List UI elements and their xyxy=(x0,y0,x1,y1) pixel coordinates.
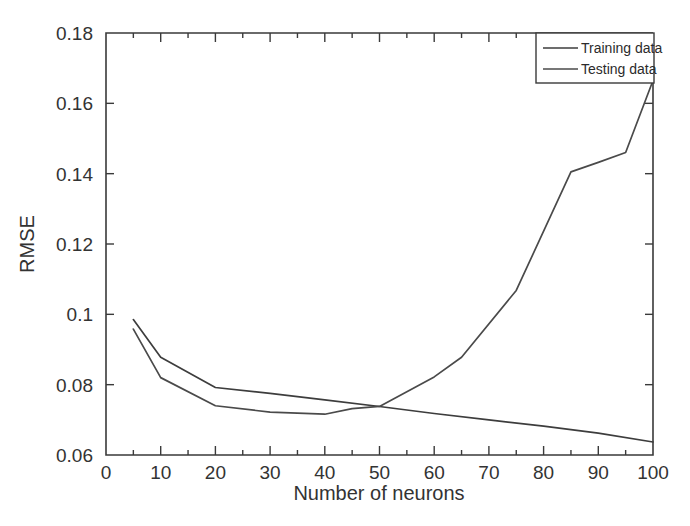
y-tick-label: 0.08 xyxy=(56,375,93,396)
y-tick-label: 0.12 xyxy=(56,234,93,255)
legend: Training data Testing data xyxy=(536,33,662,83)
y-tick-label: 0.06 xyxy=(56,445,93,466)
x-tick-label: 80 xyxy=(533,462,554,483)
x-tick-label: 20 xyxy=(205,462,226,483)
chart-figure: 0.060.080.10.120.140.160.18 010203040506… xyxy=(0,0,690,526)
x-axis-title: Number of neurons xyxy=(293,482,464,504)
x-tick-label: 0 xyxy=(101,462,112,483)
legend-label-training: Training data xyxy=(581,40,662,56)
x-tick-label: 60 xyxy=(424,462,445,483)
x-tick-label: 10 xyxy=(150,462,171,483)
rmse-vs-neurons-line-chart: 0.060.080.10.120.140.160.18 010203040506… xyxy=(0,0,690,526)
x-tick-label: 50 xyxy=(369,462,390,483)
x-tick-label: 90 xyxy=(588,462,609,483)
x-tick-label: 30 xyxy=(260,462,281,483)
y-axis-title: RMSE xyxy=(16,215,38,273)
y-tick-label: 0.14 xyxy=(56,164,93,185)
y-tick-label: 0.18 xyxy=(56,23,93,44)
x-tick-label: 70 xyxy=(478,462,499,483)
y-tick-label: 0.1 xyxy=(67,304,93,325)
x-tick-label: 100 xyxy=(637,462,669,483)
y-tick-label: 0.16 xyxy=(56,93,93,114)
legend-label-testing: Testing data xyxy=(581,61,657,77)
x-tick-label: 40 xyxy=(314,462,335,483)
